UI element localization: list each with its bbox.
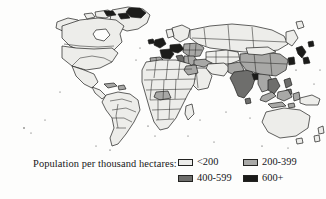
world-map-svg bbox=[0, 0, 326, 152]
legend-swatch-600-plus bbox=[243, 175, 258, 182]
legend-swatch-200-399 bbox=[243, 159, 258, 166]
legend-entry-200-399: 200-399 bbox=[243, 157, 297, 167]
legend-entry-under-200: <200 bbox=[178, 157, 218, 167]
legend-label-600-plus: 600+ bbox=[262, 173, 283, 183]
legend-label-400-599: 400-599 bbox=[197, 173, 232, 183]
legend-swatch-under-200 bbox=[178, 159, 193, 166]
legend-entry-400-599: 400-599 bbox=[178, 173, 232, 183]
legend-entry-600-plus: 600+ bbox=[243, 173, 283, 183]
world-map-figure bbox=[0, 0, 326, 152]
legend-label-200-399: 200-399 bbox=[262, 157, 297, 167]
legend-swatch-400-599 bbox=[178, 175, 193, 182]
legend-title: Population per thousand hectares: bbox=[33, 158, 177, 169]
legend-label-under-200: <200 bbox=[197, 157, 218, 167]
map-figure-page: Population per thousand hectares: <200 2… bbox=[0, 0, 326, 199]
map-legend: Population per thousand hectares: <200 2… bbox=[0, 152, 326, 199]
legend-inner: Population per thousand hectares: <200 2… bbox=[0, 152, 326, 199]
